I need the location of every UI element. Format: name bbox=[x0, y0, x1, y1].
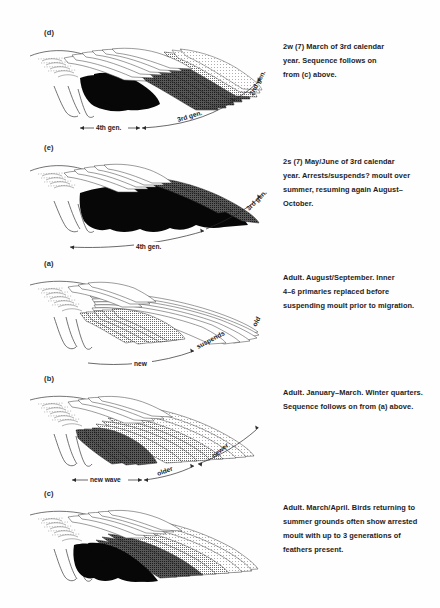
caption-e: 2s (7) May/June of 3rd calendar year. Ar… bbox=[283, 155, 435, 211]
wing-diagram-b: new wave older newer bbox=[28, 380, 278, 492]
caption-line: 2s (7) May/June of 3rd calendar bbox=[283, 155, 435, 169]
caption-line: 4–6 primaries replaced before bbox=[283, 285, 435, 299]
wing-diagram-a: new suspends old bbox=[28, 265, 278, 377]
annotation-label: 3rd gen. bbox=[176, 109, 203, 124]
wing-svg-b: new wave older newer bbox=[28, 380, 278, 492]
annotation-label: old bbox=[251, 315, 262, 327]
annotation-label: 4th gen. bbox=[96, 124, 121, 132]
caption-line: Adult. January–March. Winter quarters. bbox=[283, 386, 435, 400]
caption-line: feathers present. bbox=[283, 543, 435, 557]
caption-line: Sequence follows on from (a) above. bbox=[283, 400, 435, 414]
caption-line: Adult. March/April. Birds returning to bbox=[283, 501, 435, 515]
annotation-new-a: new bbox=[88, 349, 194, 368]
annotation-older-b: older bbox=[144, 464, 194, 482]
caption-line: from (c) above. bbox=[283, 68, 435, 82]
annotation-new-wave-b: new wave bbox=[72, 475, 142, 484]
wing-svg-a: new suspends old bbox=[28, 265, 278, 377]
caption-line: Adult. August/September. Inner bbox=[283, 271, 435, 285]
figure-page: (d) bbox=[0, 0, 440, 608]
annotation-label: 3rd gen. bbox=[245, 189, 269, 213]
wing-svg-c bbox=[28, 495, 278, 607]
caption-line: moult with up to 3 generations of bbox=[283, 529, 435, 543]
caption-a: Adult. August/September. Inner 4–6 prima… bbox=[283, 271, 435, 313]
caption-b: Adult. January–March. Winter quarters. S… bbox=[283, 386, 435, 414]
annotation-label: new bbox=[134, 360, 148, 367]
caption-line: summer, resuming again August– bbox=[283, 183, 435, 197]
annotation-label: new wave bbox=[90, 476, 121, 483]
wing-diagram-c bbox=[28, 495, 278, 607]
caption-d: 2w (7) March of 3rd calendar year. Seque… bbox=[283, 40, 435, 82]
caption-line: October. bbox=[283, 197, 435, 211]
caption-line: year. Arrests/suspends? moult over bbox=[283, 169, 435, 183]
wing-svg-d: 4th gen. 3rd gen. 2nd gen. bbox=[28, 34, 278, 146]
caption-line: year. Sequence follows on bbox=[283, 54, 435, 68]
wing-diagram-e: 4th gen. 3rd gen. bbox=[28, 149, 278, 261]
annotation-4th-gen-d: 4th gen. bbox=[80, 123, 140, 132]
caption-line: 2w (7) March of 3rd calendar bbox=[283, 40, 435, 54]
wing-svg-e: 4th gen. 3rd gen. bbox=[28, 149, 278, 261]
caption-c: Adult. March/April. Birds returning to s… bbox=[283, 501, 435, 557]
caption-line: suspending moult prior to migration. bbox=[283, 299, 435, 313]
annotation-label: 4th gen. bbox=[136, 243, 161, 251]
wing-diagram-d: 4th gen. 3rd gen. 2nd gen. bbox=[28, 34, 278, 146]
caption-line: summer grounds often show arrested bbox=[283, 515, 435, 529]
annotation-old-a: old bbox=[251, 315, 262, 327]
